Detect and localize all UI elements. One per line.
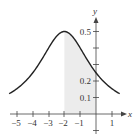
svg-text:−1: −1 [74,118,84,128]
svg-text:0.5: 0.5 [80,27,92,37]
svg-text:1: 1 [110,118,115,128]
svg-text:−3: −3 [43,118,53,128]
svg-text:−4: −4 [27,118,37,128]
x-axis-label: x [127,109,132,119]
chart: x y −5 −4 −3 −2 −1 1 0.1 0.2 0.5 [0,0,135,140]
svg-text:0.1: 0.1 [80,93,91,103]
y-axis-arrow-icon [94,17,99,23]
x-tick-labels: −5 −4 −3 −2 −1 1 [11,118,114,128]
svg-text:−5: −5 [11,118,21,128]
svg-text:−2: −2 [58,118,68,128]
y-axis-label: y [92,6,97,16]
x-axis-arrow-icon [121,112,127,117]
svg-text:0.2: 0.2 [80,76,91,86]
